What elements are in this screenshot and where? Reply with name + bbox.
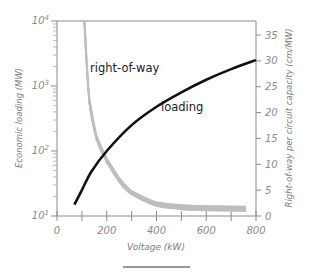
y-right-tick-label: 5	[265, 185, 271, 196]
loading-label: loading	[161, 100, 203, 114]
y-right-axis-title: Right-of-way per circuit capacity (cm/MW…	[284, 28, 294, 207]
y-left-tick-label: 103	[32, 79, 49, 91]
y-right-tick-label: 0	[265, 211, 271, 222]
right-of-way-series-thick	[84, 21, 246, 209]
y-left-tick-label: 102	[32, 144, 50, 156]
x-axis-title: Voltage (kW)	[127, 242, 185, 252]
y-right-tick-label: 15	[265, 133, 278, 144]
x-tick-label: 0	[54, 225, 60, 236]
chart: 101102103104 05101520253035 020040060080…	[0, 0, 310, 276]
x-tick-label: 800	[246, 225, 265, 236]
x-axis-ticks: 0200400600800	[54, 211, 266, 236]
x-tick-label: 400	[147, 225, 166, 236]
y-right-tick-label: 35	[265, 30, 278, 41]
y-right-tick-label: 30	[265, 55, 278, 66]
loading-series	[74, 60, 256, 204]
x-tick-label: 200	[97, 225, 116, 236]
y-right-tick-label: 25	[265, 81, 278, 92]
y-right-tick-label: 20	[265, 107, 278, 118]
y-left-tick-label: 101	[32, 209, 49, 221]
left-axis-ticks: 101102103104	[32, 14, 57, 221]
y-left-tick-label: 104	[32, 14, 49, 26]
right-of-way-label: right-of-way	[90, 61, 159, 75]
y-right-tick-label: 10	[265, 159, 278, 170]
right-of-way-series	[84, 21, 246, 209]
right-axis-ticks: 05101520253035	[256, 30, 278, 222]
x-tick-label: 600	[197, 225, 216, 236]
y-left-axis-title: Economic loading (MW)	[14, 68, 24, 168]
